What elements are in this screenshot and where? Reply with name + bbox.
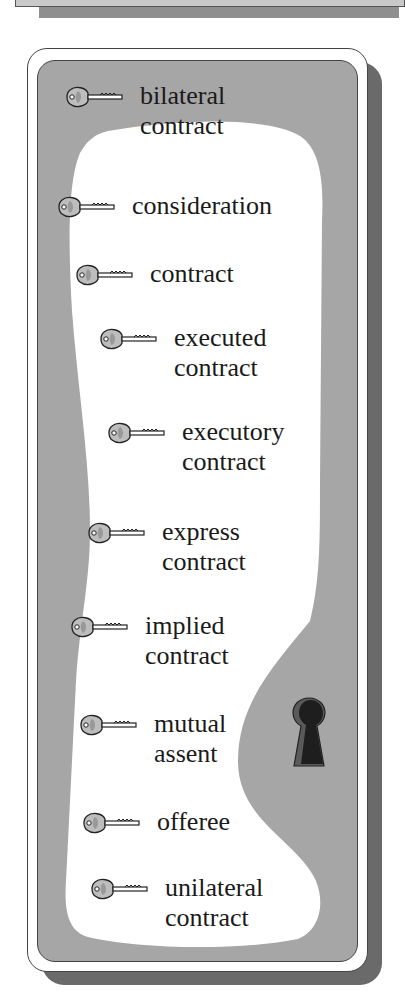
term-line2: contract: [140, 111, 225, 141]
term-line1: mutual: [154, 709, 226, 739]
list-item-executory-contract: executory contract: [108, 417, 285, 477]
top-banner: [15, 0, 405, 7]
term-line1: bilateral: [140, 81, 225, 111]
term-line1: contract: [150, 259, 234, 289]
key-icon: [100, 327, 160, 351]
key-icon: [108, 421, 168, 445]
key-icon: [66, 85, 126, 109]
key-icon: [88, 521, 148, 545]
term-line2: contract: [174, 353, 266, 383]
list-item-express-contract: express contract: [88, 517, 246, 577]
top-banner-shadow: [39, 7, 399, 18]
list-item-executed-contract: executed contract: [100, 323, 266, 383]
keyhole-icon: [291, 696, 327, 768]
term-line2: contract: [182, 447, 285, 477]
list-item-consideration: consideration: [58, 191, 272, 221]
list-item-offeree: offeree: [83, 807, 230, 837]
list-item-bilateral-contract: bilateral contract: [66, 81, 225, 141]
key-icon: [80, 713, 140, 737]
key-icon: [58, 195, 118, 219]
term-line1: executed: [174, 323, 266, 353]
key-icon: [91, 877, 151, 901]
term-line2: contract: [145, 641, 229, 671]
key-icon: [76, 263, 136, 287]
list-item-mutual-assent: mutual assent: [80, 709, 226, 769]
list-item-unilateral-contract: unilateral contract: [91, 873, 263, 933]
list-item-contract: contract: [76, 259, 234, 289]
term-line2: contract: [162, 547, 246, 577]
list-item-implied-contract: implied contract: [71, 611, 229, 671]
key-icon: [71, 615, 131, 639]
term-line2: assent: [154, 739, 226, 769]
term-line1: express: [162, 517, 246, 547]
term-line2: contract: [165, 903, 263, 933]
key-icon: [83, 811, 143, 835]
term-list: bilateral contract consideration contrac…: [38, 61, 357, 961]
term-line1: offeree: [157, 807, 230, 837]
term-line1: consideration: [132, 191, 272, 221]
key-terms-panel: bilateral contract consideration contrac…: [37, 60, 358, 962]
term-line1: unilateral: [165, 873, 263, 903]
term-line1: executory: [182, 417, 285, 447]
term-line1: implied: [145, 611, 229, 641]
